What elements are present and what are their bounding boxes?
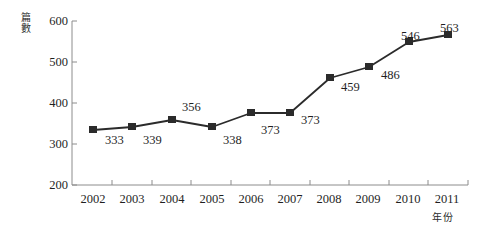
data-point-2007 bbox=[286, 109, 294, 116]
x-axis bbox=[72, 180, 468, 185]
data-point-2005 bbox=[208, 123, 216, 130]
data-point-2011 bbox=[444, 31, 452, 38]
data-line bbox=[93, 35, 448, 130]
plot-area bbox=[0, 0, 492, 240]
data-point-2010 bbox=[405, 38, 413, 45]
data-markers bbox=[89, 31, 452, 133]
data-point-2003 bbox=[128, 123, 136, 130]
data-point-2006 bbox=[247, 109, 255, 116]
line-chart: 篇數 年份 600 500 400 300 200 2002 2003 2004… bbox=[0, 0, 492, 240]
y-axis bbox=[72, 21, 77, 185]
data-point-2009 bbox=[365, 63, 373, 70]
data-point-2008 bbox=[326, 74, 334, 81]
data-point-2002 bbox=[89, 126, 97, 133]
data-point-2004 bbox=[168, 116, 176, 123]
